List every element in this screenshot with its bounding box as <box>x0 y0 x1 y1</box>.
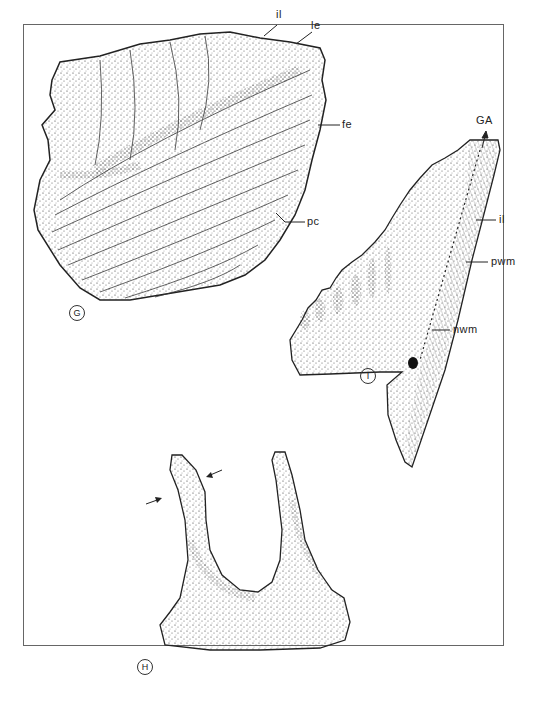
panel-label-i: I <box>360 368 376 384</box>
panel-h-drawing <box>146 452 350 650</box>
panel-label-h: H <box>137 659 153 675</box>
label-i-pwm: pwm <box>491 256 516 267</box>
panel-label-g: G <box>69 305 85 321</box>
label-g-fe: fe <box>342 119 352 130</box>
figure-artwork <box>0 0 534 710</box>
label-i-il: il <box>499 214 505 225</box>
label-i-nwm: nwm <box>453 324 478 335</box>
panel-g-drawing <box>34 32 326 300</box>
label-g-le: le <box>311 20 321 31</box>
label-i-ga: GA <box>476 115 493 126</box>
label-g-pc: pc <box>307 216 320 227</box>
panel-i-drawing <box>290 140 500 467</box>
label-g-il: il <box>276 9 282 20</box>
